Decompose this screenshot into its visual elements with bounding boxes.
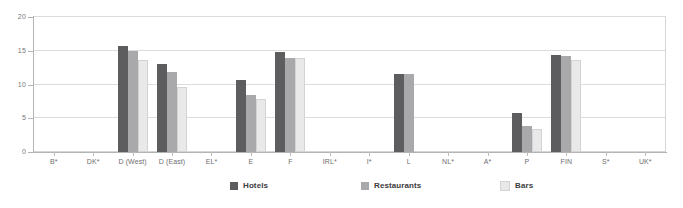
- x-axis-label: A*: [484, 157, 492, 166]
- y-axis-label: 0: [0, 148, 26, 156]
- bar-bars-dwest: [138, 60, 148, 152]
- x-axis-tick: [211, 152, 212, 156]
- bar-restaurants-p: [522, 126, 532, 152]
- x-axis-tick: [172, 152, 173, 156]
- x-axis-label: NL*: [442, 157, 454, 166]
- x-axis-tick: [251, 152, 252, 156]
- x-axis-tick: [93, 152, 94, 156]
- legend-label: Bars: [515, 181, 533, 191]
- x-axis-tick: [409, 152, 410, 156]
- bar-restaurants-deast: [167, 72, 177, 152]
- bar-bars-f: [295, 58, 305, 153]
- x-axis-tick: [369, 152, 370, 156]
- y-axis-label: 20: [0, 13, 26, 21]
- x-axis-label: I*: [367, 157, 372, 166]
- x-axis-label: D (East): [159, 157, 185, 166]
- bar-hotels-f: [275, 52, 285, 152]
- x-axis-label: EL*: [206, 157, 218, 166]
- x-axis-tick: [606, 152, 607, 156]
- legend-swatch-icon: [230, 182, 238, 190]
- legend-item-restaurants[interactable]: Restaurants: [361, 180, 421, 192]
- legend-item-hotels[interactable]: Hotels: [230, 180, 268, 192]
- x-axis-label: B*: [50, 157, 58, 166]
- bar-hotels-dwest: [118, 46, 128, 152]
- x-axis-tick: [448, 152, 449, 156]
- x-axis-tick: [527, 152, 528, 156]
- bar-hotels-fin: [551, 55, 561, 152]
- x-axis-tick: [290, 152, 291, 156]
- x-axis-label: IRL*: [323, 157, 337, 166]
- bars-layer: [34, 17, 665, 152]
- y-axis-label: 10: [0, 81, 26, 89]
- legend-label: Hotels: [243, 181, 268, 191]
- bar-restaurants-f: [285, 58, 295, 153]
- y-axis-label: 5: [0, 114, 26, 122]
- x-axis-label: UK*: [639, 157, 652, 166]
- x-axis-label: P: [525, 157, 530, 166]
- chart-legend: HotelsRestaurantsBars: [0, 180, 683, 194]
- x-axis-label: FIN: [561, 157, 573, 166]
- x-axis-label: D (West): [118, 157, 146, 166]
- bar-chart: 05101520 B*DK*D (West)D (East)EL*EFIRL*I…: [0, 0, 683, 208]
- x-axis-tick: [330, 152, 331, 156]
- legend-swatch-icon: [361, 182, 369, 190]
- bar-restaurants-l: [404, 74, 414, 152]
- legend-item-bars[interactable]: Bars: [500, 180, 533, 192]
- bar-restaurants-fin: [561, 56, 571, 152]
- bar-bars-fin: [571, 60, 581, 152]
- x-axis-tick: [488, 152, 489, 156]
- bar-bars-e: [256, 99, 266, 152]
- legend-label: Restaurants: [374, 181, 421, 191]
- x-axis-label: L: [407, 157, 411, 166]
- bar-hotels-p: [512, 113, 522, 152]
- x-axis-label: S*: [602, 157, 610, 166]
- bar-hotels-l: [394, 74, 404, 152]
- x-axis-tick: [54, 152, 55, 156]
- bar-hotels-e: [236, 80, 246, 152]
- bar-bars-p: [532, 129, 542, 152]
- x-axis-tick: [645, 152, 646, 156]
- x-axis-label: F: [288, 157, 292, 166]
- x-axis-label: DK*: [87, 157, 100, 166]
- x-axis-tick: [566, 152, 567, 156]
- x-axis-line: [33, 152, 667, 153]
- y-axis-label: 15: [0, 47, 26, 55]
- bar-restaurants-e: [246, 95, 256, 152]
- bar-bars-deast: [177, 87, 187, 152]
- x-axis-label: E: [249, 157, 254, 166]
- bar-hotels-deast: [157, 64, 167, 152]
- bar-restaurants-dwest: [128, 51, 138, 152]
- legend-swatch-icon: [500, 181, 510, 191]
- x-axis-tick: [133, 152, 134, 156]
